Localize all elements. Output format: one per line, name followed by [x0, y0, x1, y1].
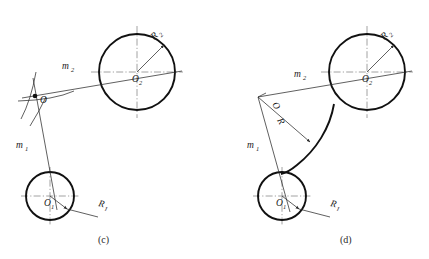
panel-c: [18, 26, 183, 225]
panel-d: [253, 26, 413, 225]
labels-panel-d: O 2 O 1 R 2 R 1 m 2 m 1 O R: [247, 27, 395, 213]
label-r1-sub-c: 1: [104, 205, 109, 213]
label-m2-d: m: [294, 69, 301, 79]
label-m1-d: m: [247, 140, 254, 150]
label-o2-sub-c: 2: [139, 79, 143, 86]
label-o1-sub-d: 1: [283, 203, 286, 210]
label-o-c: O: [40, 95, 47, 105]
figure-root: O 2 O 1 R 2 R 1 m 2 m 1 O O 2 O 1: [0, 0, 429, 259]
label-m1-c: m: [16, 140, 23, 150]
label-m1-sub-d: 1: [256, 145, 259, 152]
label-o1-d: O: [276, 198, 283, 208]
caption-panel-d: (d): [340, 234, 352, 246]
line-m1-d: [258, 97, 290, 212]
tangent-arc-d: [281, 104, 334, 174]
label-o1-c: O: [44, 198, 51, 208]
radius-leader-r2-d: [367, 45, 394, 72]
label-m2-sub-d: 2: [303, 74, 307, 81]
label-m2-sub-c: 2: [71, 66, 75, 73]
line-m2-c: [22, 71, 182, 98]
point-o-marker-c: [33, 94, 38, 99]
label-m2-c: m: [62, 61, 69, 71]
labels-panel-c: O 2 O 1 R 2 R 1 m 2 m 1 O: [16, 27, 165, 213]
label-m1-sub-c: 1: [25, 145, 28, 152]
label-o2-c: O: [132, 74, 139, 84]
engineering-drawing: O 2 O 1 R 2 R 1 m 2 m 1 O O 2 O 1: [0, 0, 429, 259]
label-r1-sub-d: 1: [336, 205, 341, 213]
label-o1-sub-c: 1: [51, 203, 54, 210]
radius-leader-r2-c: [137, 45, 164, 72]
label-r-d: R: [275, 115, 287, 126]
label-o2-d: O: [362, 74, 369, 84]
radius-leader-r1-tail-c: [67, 209, 98, 217]
label-o2-sub-d: 2: [369, 79, 373, 86]
caption-panel-c: (c): [98, 234, 109, 246]
radius-leader-r1-tail-d: [299, 209, 330, 217]
